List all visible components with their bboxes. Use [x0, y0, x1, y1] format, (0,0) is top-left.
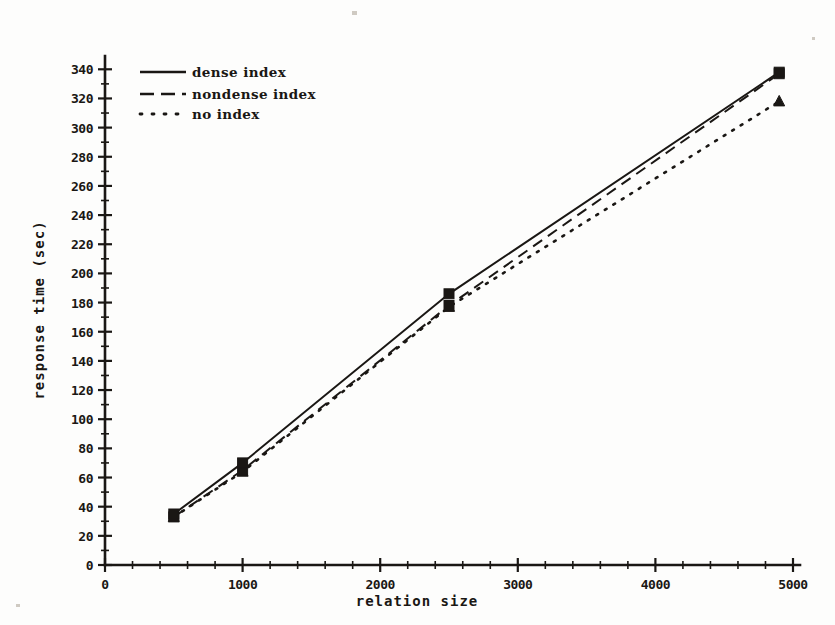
x-tick-label: 0: [101, 577, 109, 592]
y-tick-label: 40: [78, 500, 93, 515]
y-tick-label: 100: [71, 412, 94, 427]
y-tick-label: 20: [78, 529, 93, 544]
series-markers-dense-index: [169, 67, 784, 519]
y-tick-label: 300: [71, 121, 94, 136]
x-tick-label: 4000: [641, 577, 671, 592]
legend-label-no-index: no index: [192, 106, 260, 122]
y-tick-label: 280: [71, 150, 94, 165]
legend-item-no-index: no index: [140, 106, 260, 122]
series-group: [168, 67, 784, 522]
x-axis-title: relation size: [356, 593, 479, 609]
data-point-marker: [444, 301, 454, 311]
y-axis-title: response time (sec): [31, 220, 47, 399]
y-tick-label: 260: [71, 179, 94, 194]
y-tick-label: 140: [71, 354, 94, 369]
series-markers-no-index: [168, 95, 784, 521]
scan-speckles: [16, 11, 815, 607]
series-line-nondense-index: [174, 74, 779, 517]
chart-canvas: 0204060801001201401601802002202402602803…: [0, 0, 835, 625]
y-tick-label: 240: [71, 208, 94, 223]
y-tick-label: 180: [71, 296, 94, 311]
x-tick-label: 3000: [503, 577, 533, 592]
y-tick-label: 160: [71, 325, 94, 340]
data-point-marker: [169, 509, 179, 519]
data-point-marker: [238, 458, 248, 468]
legend-item-nondense-index: nondense index: [140, 86, 317, 102]
x-tick-label: 5000: [778, 577, 808, 592]
x-axis-ticks: 010002000300040005000: [101, 558, 808, 592]
data-point-marker: [444, 289, 454, 299]
series-line-no-index: [174, 101, 779, 517]
y-tick-label: 80: [78, 441, 93, 456]
series-markers-nondense-index: [169, 69, 784, 522]
y-tick-label: 340: [71, 62, 94, 77]
legend: dense index nondense index no index: [140, 64, 317, 122]
legend-label-dense-index: dense index: [192, 64, 287, 80]
y-tick-label: 320: [71, 91, 94, 106]
legend-label-nondense-index: nondense index: [192, 86, 317, 102]
legend-item-dense-index: dense index: [140, 64, 287, 80]
y-tick-label: 220: [71, 237, 94, 252]
y-tick-label: 200: [71, 266, 94, 281]
data-point-marker: [774, 67, 784, 77]
y-tick-label: 120: [71, 383, 94, 398]
y-tick-label: 60: [78, 471, 93, 486]
x-tick-label: 1000: [228, 577, 258, 592]
x-tick-label: 2000: [366, 577, 396, 592]
data-point-marker: [774, 95, 785, 106]
chart-figure: 0204060801001201401601802002202402602803…: [0, 0, 835, 625]
y-tick-label: 0: [86, 558, 94, 573]
